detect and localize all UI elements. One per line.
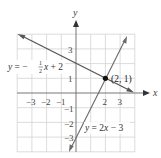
line2-equation-label: y = 2x − 3 — [84, 122, 130, 134]
coordinate-graph: x y −3 −2 −1 2 3 3 1 −1 −2 −3 (2, 1) y =… — [0, 0, 161, 158]
x-tick: −3 — [26, 97, 36, 107]
y-tick: −1 — [64, 104, 74, 114]
line1-arrow-start-icon — [18, 34, 26, 39]
y-tick: 1 — [68, 74, 73, 84]
y-axis-arrow-icon — [73, 20, 79, 27]
x-tick: 2 — [103, 97, 108, 107]
y-axis-label: y — [72, 7, 78, 18]
y-tick: −3 — [64, 133, 74, 143]
x-axis-label: x — [152, 87, 158, 98]
svg-text:1: 1 — [39, 60, 42, 66]
axes — [17, 20, 150, 152]
x-axis-arrow-icon — [143, 90, 150, 96]
x-tick: −2 — [41, 97, 51, 107]
svg-text:2: 2 — [39, 68, 42, 74]
x-tick: 3 — [118, 97, 123, 107]
y-tick: −2 — [64, 119, 74, 129]
line1-arrow-end-icon — [126, 87, 134, 92]
line2-arrow-start-icon — [69, 144, 74, 152]
line1-equation-label: y = − 1 2 x + 2 — [7, 60, 65, 74]
line2-arrow-end-icon — [122, 36, 127, 44]
x-tick-labels: −3 −2 −1 2 3 — [26, 97, 123, 107]
svg-text:x + 2: x + 2 — [43, 62, 63, 72]
line-2 — [69, 36, 127, 152]
y-tick: 3 — [68, 45, 73, 55]
intersection-point — [103, 76, 108, 81]
svg-text:y = −: y = − — [7, 62, 28, 72]
svg-text:y = 2x − 3: y = 2x − 3 — [84, 123, 123, 133]
intersection-label: (2, 1) — [111, 74, 132, 85]
